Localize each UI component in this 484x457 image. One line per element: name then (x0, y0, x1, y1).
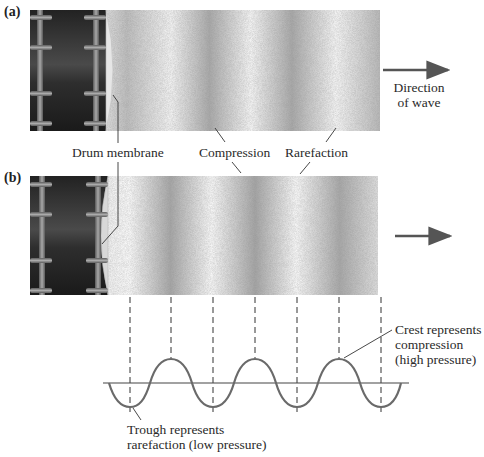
crest-label: Crest represents compression (high press… (395, 322, 482, 367)
drum-membrane-label: Drum membrane (72, 145, 164, 160)
crest-label-line1: Crest represents (395, 322, 482, 337)
direction-label-line2: of wave (388, 95, 450, 110)
air-column-b (105, 176, 378, 295)
compression-label: Compression (199, 145, 270, 160)
diagram-canvas (0, 0, 484, 457)
trough-label: Trough represents rarefaction (low press… (127, 422, 266, 452)
panel-a (30, 10, 448, 131)
panel-b-label: (b) (4, 170, 21, 186)
drum-a (30, 10, 113, 131)
direction-of-wave-label: Direction of wave (388, 80, 450, 110)
panel-b (30, 176, 450, 295)
panel-a-label: (a) (4, 4, 20, 20)
drum-b (30, 176, 108, 295)
rarefaction-label: Rarefaction (285, 145, 348, 160)
trough-label-line2: rarefaction (low pressure) (127, 437, 266, 452)
crest-label-line3: (high pressure) (395, 352, 482, 367)
trough-label-line1: Trough represents (127, 422, 266, 437)
direction-label-line1: Direction (388, 80, 450, 95)
dashed-projections (130, 297, 381, 412)
crest-label-line2: compression (395, 337, 482, 352)
air-column-a (105, 10, 380, 131)
